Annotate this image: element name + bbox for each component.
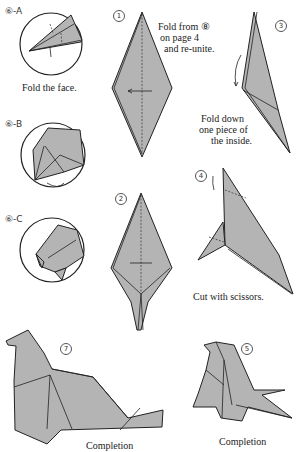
diagram-artwork <box>0 0 303 452</box>
step-5-number: 5 <box>241 343 253 355</box>
step-6a-label: ⑥-A <box>5 6 22 16</box>
step-4-diagram <box>198 168 293 294</box>
step-6c-label: ⑥-C <box>5 214 23 224</box>
step-5-caption: Completion <box>219 436 266 447</box>
step-1-number: 1 <box>113 10 125 22</box>
detail-6c-fold <box>20 218 84 282</box>
detail-6a-face-fold <box>20 13 82 75</box>
step-3-caption-line: the inside. <box>199 135 252 146</box>
step-3-caption-line: Fold down <box>199 113 252 124</box>
step-1-caption-line: on page 4 <box>158 32 215 43</box>
step-7-completed-seal <box>6 330 163 444</box>
step-2-number: 2 <box>115 193 127 205</box>
step-3-caption: Fold down one piece of the inside. <box>199 113 252 146</box>
step-2-diagram <box>111 193 172 330</box>
step-3-caption-line: one piece of <box>199 124 252 135</box>
step-1-caption-line: and re-unite. <box>158 43 215 54</box>
step-4-caption: Cut with scissors. <box>193 291 264 302</box>
step-1-caption-line: Fold from ⑧ <box>158 21 215 32</box>
step-1-caption: Fold from ⑧ on page 4 and re-unite. <box>158 21 215 54</box>
step-6b-label: ⑥-B <box>5 119 22 129</box>
detail-6b-fold <box>21 123 85 187</box>
step-4-number: 4 <box>195 170 207 182</box>
step-7-caption: Completion <box>86 440 133 451</box>
step-6a-caption: Fold the face. <box>22 82 77 93</box>
step-3-number: 3 <box>275 20 287 32</box>
step-7-number: 7 <box>60 343 72 355</box>
